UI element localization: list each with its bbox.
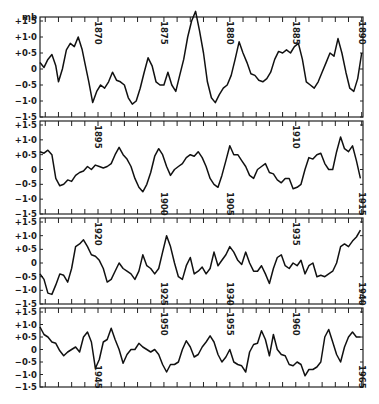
year-label: 1935 [291,222,301,246]
pressure-anomaly-chart: +1·5+1·0+0·50−0·5−1·0−1·5mb1870187518801… [0,0,379,404]
y-tick-label: 0 [31,64,37,74]
year-label: 1885 [291,21,301,45]
y-tick-label: +1·5 [15,120,37,130]
y-tick-label: −1·0 [15,285,37,295]
y-tick-label: +0·5 [15,150,37,160]
y-tick-label: −1·0 [15,194,37,204]
year-label: 1965 [357,365,367,389]
year-label: 1945 [93,365,103,389]
y-tick-label: +1·5 [15,217,37,227]
year-label: 1875 [159,21,169,45]
year-label: 1940 [357,282,367,306]
y-tick-label: 0 [31,165,37,175]
y-unit-label: mb [22,12,37,22]
year-label: 1955 [225,312,235,336]
year-label: 1960 [291,312,301,336]
chart-panels: +1·5+1·0+0·50−0·5−1·0−1·5mb1870187518801… [15,11,367,392]
year-label: 1870 [93,21,103,45]
year-label: 1925 [159,282,169,306]
plot-frame [40,218,363,304]
year-label: 1900 [159,192,169,216]
year-label: 1915 [357,192,367,216]
y-tick-label: +1·5 [15,307,37,317]
chart-panel-3: +1·5+1·0+0·50−0·5−1·0−1·5192019251930193… [15,217,367,309]
y-tick-label: +0·5 [15,244,37,254]
y-tick-label: 0 [31,258,37,268]
chart-panel-2: +1·5+1·0+0·50−0·5−1·0−1·5189519001905191… [15,120,367,219]
y-tick-label: −0·5 [15,80,37,90]
y-tick-label: +1·0 [15,32,37,42]
year-label: 1890 [357,21,367,45]
y-tick-label: −0·5 [15,272,37,282]
pressure-trace [40,11,362,104]
y-tick-label: −1·0 [15,370,37,380]
chart-panel-1: +1·5+1·0+0·50−0·5−1·0−1·5mb1870187518801… [15,11,367,122]
chart-panel-4: +1·5+1·0+0·50−0·5−1·0−1·5194519501955196… [15,307,367,392]
pressure-trace [40,230,360,294]
year-label: 1930 [225,282,235,306]
y-tick-label: +0·5 [15,48,37,58]
year-label: 1895 [93,125,103,149]
y-tick-label: −0·5 [15,357,37,367]
year-label: 1910 [291,125,301,149]
plot-frame [40,17,363,117]
y-tick-label: −1·5 [15,382,37,392]
year-label: 1905 [225,192,235,216]
y-tick-label: +0·5 [15,332,37,342]
year-label: 1920 [93,222,103,246]
y-tick-label: +1·0 [15,231,37,241]
pressure-trace [40,327,360,376]
y-tick-label: −0·5 [15,179,37,189]
year-label: 1880 [225,21,235,45]
year-label: 1950 [159,312,169,336]
y-tick-label: −1·0 [15,96,37,106]
y-tick-label: 0 [31,345,37,355]
y-tick-label: +1·0 [15,320,37,330]
pressure-trace [40,137,360,192]
y-tick-label: +1·0 [15,135,37,145]
